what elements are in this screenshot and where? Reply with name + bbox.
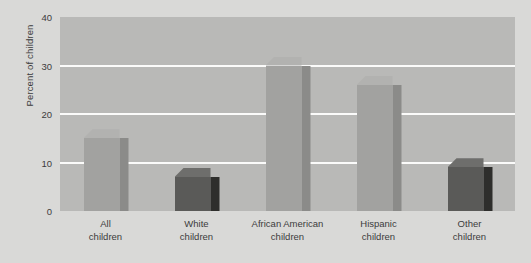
bar-top-face (84, 129, 120, 138)
y-tick-10: 10 (0, 157, 52, 168)
x-label-african-american-children: African American children (242, 218, 333, 243)
x-label-line-2: children (424, 231, 515, 244)
y-tick-0: 0 (0, 206, 52, 217)
bar-chart-figure: Percent of children 0 10 20 30 40 (0, 0, 531, 263)
x-label-white-children: White children (151, 218, 242, 243)
bar-top-face (266, 57, 302, 66)
x-label-line-1: All (60, 218, 151, 231)
x-axis-tick-labels: All children White children African Amer… (60, 218, 515, 258)
bar-african-american-children (266, 66, 302, 212)
x-label-line-2: children (60, 231, 151, 244)
bar-side-face (120, 138, 129, 211)
x-label-line-1: Other (424, 218, 515, 231)
bar-front-face (448, 167, 484, 211)
x-label-hispanic-children: Hispanic children (333, 218, 424, 243)
x-label-line-2: children (151, 231, 242, 244)
bar-front-face (84, 138, 120, 211)
bar-side-face (302, 66, 311, 212)
bar-top-face (448, 158, 484, 167)
bar-top-face (357, 76, 393, 85)
bar-side-face (211, 177, 220, 211)
bar-all-children (84, 138, 120, 211)
x-label-all-children: All children (60, 218, 151, 243)
bar-other-children (448, 167, 484, 211)
bar-white-children (175, 177, 211, 211)
bar-side-face (393, 85, 402, 211)
x-label-line-1: White (151, 218, 242, 231)
y-tick-30: 30 (0, 60, 52, 71)
plot-area (60, 17, 515, 211)
x-label-line-1: Hispanic (333, 218, 424, 231)
bar-front-face (266, 66, 302, 212)
y-tick-40: 40 (0, 12, 52, 23)
x-label-line-1: African American (242, 218, 333, 231)
bar-front-face (175, 177, 211, 211)
y-tick-20: 20 (0, 109, 52, 120)
bar-hispanic-children (357, 85, 393, 211)
bar-front-face (357, 85, 393, 211)
x-label-line-2: children (242, 231, 333, 244)
bar-side-face (484, 167, 493, 211)
x-label-line-2: children (333, 231, 424, 244)
bar-top-face (175, 168, 211, 177)
x-label-other-children: Other children (424, 218, 515, 243)
